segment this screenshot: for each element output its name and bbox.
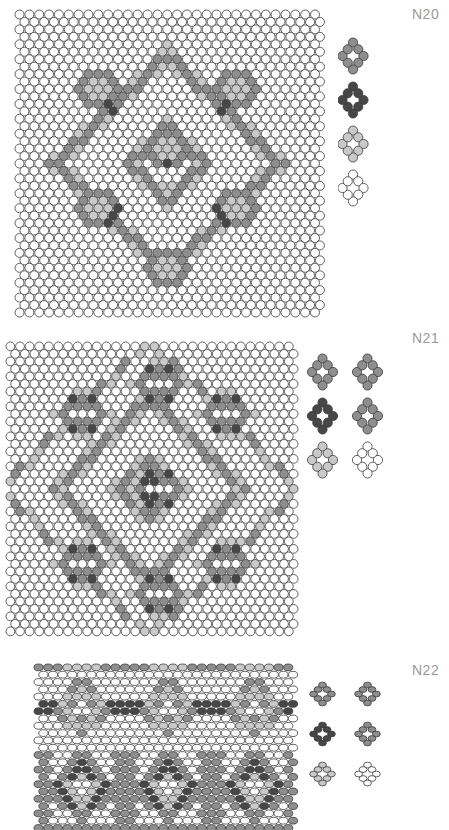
bead [68, 701, 77, 708]
bead [68, 774, 77, 781]
bead [264, 752, 273, 759]
bead [92, 664, 101, 671]
bead [149, 825, 158, 830]
bead [116, 730, 125, 737]
bead [216, 737, 225, 744]
bead [64, 627, 73, 636]
bead [216, 664, 225, 671]
legend-bead [358, 361, 367, 370]
bead [130, 693, 139, 700]
bead [44, 708, 53, 715]
bead [221, 686, 230, 693]
bead [58, 730, 67, 737]
bead [288, 701, 297, 708]
bead [144, 715, 153, 722]
bead [188, 781, 197, 788]
bead [101, 693, 110, 700]
bead [264, 693, 273, 700]
bead [183, 759, 192, 766]
bead [106, 759, 115, 766]
bead [173, 759, 182, 766]
bead [101, 679, 110, 686]
bead [140, 722, 149, 729]
bead [106, 671, 115, 678]
bead [68, 671, 77, 678]
bead [288, 817, 297, 824]
bead [111, 825, 120, 830]
bead [111, 679, 120, 686]
bead [159, 810, 168, 817]
bead [87, 686, 96, 693]
bead [255, 825, 264, 830]
bead [269, 686, 278, 693]
bead [140, 795, 149, 802]
bead [260, 817, 269, 824]
bead [154, 671, 163, 678]
bead [197, 795, 206, 802]
bead [48, 803, 57, 810]
bead [173, 788, 182, 795]
bead [216, 722, 225, 729]
bead [74, 308, 83, 317]
bead [231, 788, 240, 795]
bead [274, 766, 283, 773]
bead-chart-n22 [33, 662, 301, 830]
bead [164, 803, 173, 810]
bead [226, 781, 235, 788]
bead [149, 781, 158, 788]
bead [260, 730, 269, 737]
bead [269, 671, 278, 678]
bead [63, 810, 72, 817]
bead [260, 788, 269, 795]
bead [39, 671, 48, 678]
legend-bead [314, 727, 322, 733]
bead [227, 627, 236, 636]
bead [288, 715, 297, 722]
bead [255, 708, 264, 715]
bead [188, 795, 197, 802]
bead [48, 715, 57, 722]
bead [130, 679, 139, 686]
bead [149, 795, 158, 802]
bead [236, 795, 245, 802]
bead [39, 817, 48, 824]
bead [154, 759, 163, 766]
bead [260, 671, 269, 678]
bead [274, 810, 283, 817]
bead [284, 664, 293, 671]
bead [207, 722, 216, 729]
bead [231, 686, 240, 693]
bead [123, 308, 132, 317]
bead [168, 781, 177, 788]
bead [44, 810, 53, 817]
bead [164, 759, 173, 766]
bead [72, 664, 81, 671]
bead [82, 722, 91, 729]
bead [236, 766, 245, 773]
bead [269, 715, 278, 722]
bead [58, 817, 67, 824]
bead [260, 744, 269, 751]
bead [154, 701, 163, 708]
bead [231, 817, 240, 824]
bead [82, 766, 91, 773]
bead [87, 715, 96, 722]
bead [39, 788, 48, 795]
bead [245, 737, 254, 744]
bead [120, 766, 129, 773]
bead [217, 627, 226, 636]
bead [202, 730, 211, 737]
bead [159, 737, 168, 744]
bead [58, 759, 67, 766]
bead [68, 715, 77, 722]
bead [264, 722, 273, 729]
bead [111, 693, 120, 700]
bead [63, 708, 72, 715]
bead [164, 701, 173, 708]
bead [173, 730, 182, 737]
bead [63, 795, 72, 802]
bead [274, 795, 283, 802]
bead [192, 774, 201, 781]
bead [63, 752, 72, 759]
bead [68, 817, 77, 824]
